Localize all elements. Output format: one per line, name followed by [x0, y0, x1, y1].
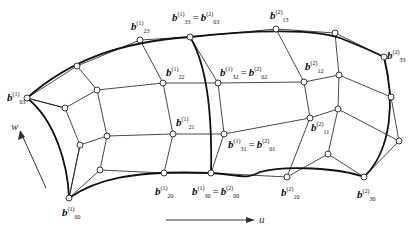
control-point: [284, 174, 290, 180]
u-axis-label: u: [259, 213, 265, 225]
control-point: [104, 133, 110, 139]
label-b00-1: b(1)00: [62, 206, 81, 220]
patch-2-control-net: [190, 29, 399, 177]
control-point: [74, 63, 80, 69]
label-b33-2: b(2)33: [387, 49, 406, 63]
control-point: [187, 34, 193, 40]
control-point: [325, 151, 331, 157]
label-b22-1: b(1)22: [166, 66, 185, 80]
control-points: [24, 26, 402, 201]
control-point: [335, 106, 341, 112]
control-point: [301, 79, 307, 85]
control-point: [94, 87, 100, 93]
label-b13-2: b(2)13: [270, 9, 289, 23]
label-b33-1-eq-b03-2: b(1)33=b(2)03: [172, 11, 219, 25]
control-point: [221, 131, 227, 137]
label-b30-1-eq-b00-2: b(1)30=b(2)00: [192, 185, 239, 199]
label-b30-2: b(2)30: [357, 188, 376, 202]
label-b31-1-eq-b01-2: b(1)31=b(2)01: [228, 138, 275, 152]
label-b21-1: b(1)21: [176, 116, 195, 130]
control-point: [332, 30, 338, 36]
control-point: [388, 94, 394, 100]
label-b12-2: b(2)12: [305, 60, 324, 74]
control-point: [336, 72, 342, 78]
control-point: [208, 170, 214, 176]
u-axis-arrow: [166, 217, 255, 223]
label-b32-1-eq-b02-2: b(1)32=b(2)02: [220, 66, 267, 80]
label-b20-1: b(1)20: [155, 185, 174, 199]
control-point: [160, 80, 166, 86]
control-point: [97, 167, 103, 173]
control-point: [66, 195, 72, 201]
control-point: [62, 105, 68, 111]
control-point: [137, 37, 143, 43]
control-point: [215, 80, 221, 86]
control-point: [361, 174, 367, 180]
control-point: [161, 170, 167, 176]
w-axis-arrow: [18, 130, 46, 188]
label-b03-1: b(1)03: [7, 91, 26, 105]
label-b10-2: b(2)10: [281, 186, 300, 200]
control-point: [273, 26, 279, 32]
w-axis-label: w: [11, 120, 18, 132]
label-b23-1: b(1)23: [131, 20, 150, 34]
control-point: [170, 131, 176, 137]
label-b11-2: b(2)11: [311, 121, 329, 135]
control-point: [396, 138, 402, 144]
control-point: [77, 142, 83, 148]
